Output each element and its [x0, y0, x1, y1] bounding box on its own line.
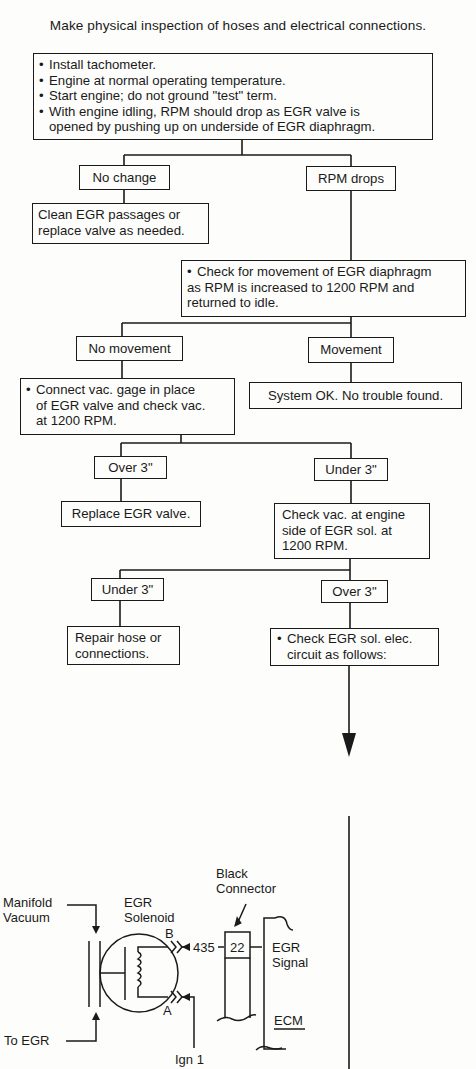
egr-signal-line2: Signal [272, 955, 308, 970]
to-egr-label: To EGR [4, 1033, 50, 1048]
black-connector-label: Black Connector [216, 866, 276, 896]
manifold-label-line1: Manifold [3, 895, 52, 910]
vacuum-in-arrow-icon [92, 926, 100, 934]
terminal-a-label: A [163, 1003, 172, 1018]
black-connector-line1: Black [216, 866, 276, 881]
manifold-vacuum-label: Manifold Vacuum [3, 895, 52, 925]
egr-solenoid-label: EGR Solenoid [124, 895, 175, 925]
ign-arrow-icon [182, 993, 190, 1001]
to-egr-arrow-icon [92, 1012, 100, 1020]
black-connector-line2: Connector [216, 881, 276, 896]
egr-signal-label: EGR Signal [272, 940, 308, 970]
egr-signal-line1: EGR [272, 940, 308, 955]
wire-number-label: 435 [193, 940, 215, 955]
manifold-label-line2: Vacuum [3, 910, 52, 925]
pin-number-label: 22 [230, 940, 244, 955]
ecm-label: ECM [274, 1013, 303, 1028]
egr-solenoid-line2: Solenoid [124, 910, 175, 925]
connector-arrow-icon [233, 916, 243, 929]
terminal-b-label: B [165, 926, 174, 941]
ign-label: Ign 1 [175, 1052, 204, 1067]
egr-solenoid-line1: EGR [124, 895, 175, 910]
wire-435-arrow-icon [182, 943, 190, 951]
egr-solenoid-schematic [0, 0, 476, 1069]
